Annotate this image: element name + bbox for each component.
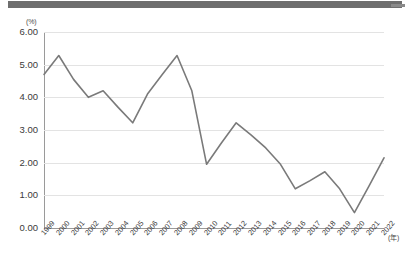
top-gray-bar bbox=[8, 1, 402, 8]
line-chart-figure: (%) 0.001.002.003.004.005.006.00 1999200… bbox=[0, 10, 410, 267]
y-axis-tick-label: 0.00 bbox=[20, 223, 39, 233]
y-axis-tick-labels: 0.001.002.003.004.005.006.00 bbox=[0, 10, 44, 267]
chart-page: (%) 0.001.002.003.004.005.006.00 1999200… bbox=[0, 0, 410, 267]
top-gray-bar-tail bbox=[391, 4, 405, 7]
y-axis-tick-label: 2.00 bbox=[20, 158, 39, 168]
y-axis-tick-label: 1.00 bbox=[20, 191, 39, 201]
y-axis-tick-label: 4.00 bbox=[20, 93, 39, 103]
y-axis-tick-label: 3.00 bbox=[20, 125, 39, 135]
x-axis-unit-label: (年) bbox=[388, 232, 399, 242]
data-series-line bbox=[44, 32, 384, 228]
y-axis-tick-label: 5.00 bbox=[20, 60, 39, 70]
y-axis-tick-label: 6.00 bbox=[20, 27, 39, 37]
x-axis-tick-labels: 1999200020012002200320042005200620072008… bbox=[44, 229, 384, 267]
plot-area bbox=[44, 32, 384, 228]
